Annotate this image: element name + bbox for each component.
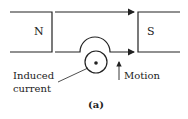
current-dot-icon xyxy=(94,61,98,65)
south-label: S xyxy=(147,26,155,37)
north-label: N xyxy=(34,26,44,37)
field-line-bottom xyxy=(55,37,134,52)
induced-current-label-line2: current xyxy=(13,83,51,94)
motion-label: Motion xyxy=(124,70,160,81)
north-pole-magnet xyxy=(10,12,52,52)
induced-current-label-line1: Induced xyxy=(13,70,54,81)
figure-caption: (a) xyxy=(88,99,104,110)
induced-current-pointer xyxy=(58,68,88,82)
south-pole-magnet xyxy=(138,12,180,52)
